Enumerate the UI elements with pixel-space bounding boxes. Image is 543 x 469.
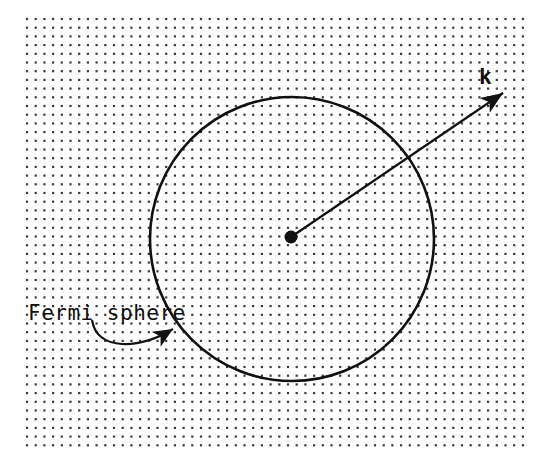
origin-dot	[285, 231, 298, 244]
fermi-sphere-label: Fermi sphere	[28, 301, 186, 325]
k-vector-label: k	[479, 65, 492, 89]
fermi-sphere-figure: Fermi sphere k	[0, 0, 543, 469]
figure-canvas: Fermi sphere k	[0, 0, 543, 469]
